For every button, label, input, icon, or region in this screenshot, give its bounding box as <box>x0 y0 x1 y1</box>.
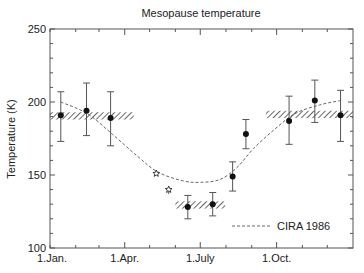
hatched-band <box>175 201 225 208</box>
data-point-marker <box>312 98 318 104</box>
star-marker <box>153 170 160 176</box>
data-point-marker <box>286 118 292 124</box>
y-axis-label: Temperature (K) <box>5 99 17 178</box>
star-marker <box>165 186 172 192</box>
data-point-marker <box>243 131 249 137</box>
data-point-marker <box>84 108 90 114</box>
data-point-marker <box>58 112 64 118</box>
y-tick-label: 250 <box>28 23 46 35</box>
y-tick-label: 200 <box>28 96 46 108</box>
x-tick-label: 1.July <box>186 252 215 264</box>
data-point-marker <box>210 201 216 207</box>
x-tick-label: 1.Oct. <box>262 252 291 264</box>
data-point-marker <box>338 112 344 118</box>
plot-area: 1001502002501.Jan.1.Apr.1.July1.Oct.CIRA… <box>28 23 353 264</box>
data-point-marker <box>185 204 191 210</box>
legend-label: CIRA 1986 <box>277 220 330 232</box>
chart-title: Mesopause temperature <box>141 7 260 19</box>
data-point-marker <box>108 115 114 121</box>
x-tick-label: 1.Apr. <box>110 252 139 264</box>
plot-frame <box>50 29 353 248</box>
x-tick-label: 1.Jan. <box>37 252 67 264</box>
mesopause-temperature-chart: Mesopause temperature Temperature (K) 10… <box>0 0 364 273</box>
y-tick-label: 150 <box>28 169 46 181</box>
data-point-marker <box>230 173 236 179</box>
